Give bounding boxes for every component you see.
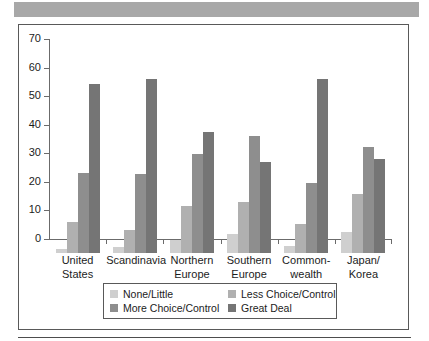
bar-group [278,53,335,253]
legend-item: More Choice/Control [110,301,228,315]
x-axis-label-line: Japan/ [335,253,392,267]
bar-group [106,53,163,253]
x-axis-label-line: Europe [221,267,278,281]
x-axis-label-line: States [49,267,106,281]
legend-label: Less Choice/Control [241,288,336,300]
legend-swatch-icon [110,304,118,312]
legend-item: Less Choice/Control [228,287,338,301]
bottom-rule [18,337,411,338]
bar [238,202,249,253]
x-axis-label-line: United [49,253,106,267]
bar [203,132,214,253]
x-axis-label: NorthernEurope [163,253,220,281]
y-tick-label: 10 [29,203,41,216]
x-axis-label-line: Europe [163,267,220,281]
bar [341,232,352,253]
x-axis-label-line: Scandinavia [106,253,163,267]
x-axis-label-line: Northern [163,253,220,267]
bar-group [163,53,220,253]
legend-swatch-icon [228,304,236,312]
bar [363,147,374,253]
legend-label: None/Little [123,288,173,300]
y-tick-label: 50 [29,89,41,102]
legend-item: None/Little [110,287,228,301]
legend-swatch-icon [110,290,118,298]
x-axis-label: Japan/Korea [335,253,392,281]
chart-figure-frame: 010203040506070 UnitedStatesScandinaviaN… [18,24,409,330]
bar [181,206,192,253]
y-tick-label: 40 [29,118,41,131]
bar [78,173,89,253]
bar [227,234,238,253]
bar [352,194,363,253]
bar [170,240,181,253]
y-tick-mark [44,39,49,40]
bar [260,162,271,253]
x-axis-label: SouthernEurope [221,253,278,281]
legend-item: Great Deal [228,301,338,315]
bar [374,159,385,253]
bar-group [335,53,392,253]
chart-legend: None/LittleLess Choice/ControlMore Choic… [103,283,337,319]
bar [317,79,328,253]
y-tick-label: 30 [29,146,41,159]
x-axis-label: Scandinavia [106,253,163,267]
bar [67,222,78,253]
legend-label: More Choice/Control [123,302,219,314]
x-axis-label-line: wealth [278,267,335,281]
bar [249,136,260,253]
x-axis-label: Common-wealth [278,253,335,281]
x-axis-label-line: Common- [278,253,335,267]
x-axis-labels: UnitedStatesScandinaviaNorthernEuropeSou… [49,253,392,285]
bar-group [221,53,278,253]
bar-group [49,53,106,253]
bar [295,224,306,253]
y-tick-label: 60 [29,61,41,74]
legend-swatch-icon [228,290,236,298]
bar [89,84,100,253]
bar [135,174,146,253]
header-band [14,2,419,17]
x-axis-label: UnitedStates [49,253,106,281]
bar [306,183,317,253]
y-tick-label: 70 [29,32,41,45]
x-axis-label-line: Southern [221,253,278,267]
bar [124,230,135,253]
bar [146,79,157,253]
plot-area: 010203040506070 [49,39,392,253]
legend-label: Great Deal [241,302,292,314]
bar [284,246,295,253]
y-tick-label: 0 [35,232,41,245]
y-tick-label: 20 [29,175,41,188]
bar [192,154,203,253]
x-axis-label-line: Korea [335,267,392,281]
